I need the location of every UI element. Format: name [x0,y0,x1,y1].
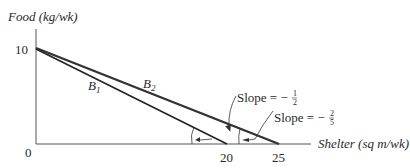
y-tick-10: 10 [15,42,28,57]
slope-b2-text: Slope = − [274,110,325,125]
x-tick-20: 20 [220,150,233,165]
slope-b1-text: Slope = − [237,90,288,105]
slope-b1-leader [229,96,236,127]
slope-b1-arc-arrowhead [195,137,200,142]
slope-b2-numerator: 2 [330,109,334,118]
slope-b2-arrowhead [242,138,249,142]
slope-b1-numerator: 1 [293,89,297,98]
slope-b1-arrow-to-arc [200,139,212,140]
b2-angle-arc [239,129,240,144]
budget-line-b1 [36,49,227,144]
slope-b2-arrow-tail [249,139,255,140]
b1-angle-arc [191,127,194,144]
y-axis-title: Food (kg/wk) [7,9,78,24]
slope-b2-denominator: 5 [330,118,334,127]
origin-label: 0 [25,145,32,160]
b2-label: B2 [143,76,156,93]
budget-constraint-diagram: Food (kg/wk) 10 0 20 25 Shelter (sq m/wk… [0,0,410,168]
x-axis-title: Shelter (sq m/wk) [318,136,409,151]
x-tick-25: 25 [272,150,285,165]
slope-b1-denominator: 2 [293,98,297,107]
